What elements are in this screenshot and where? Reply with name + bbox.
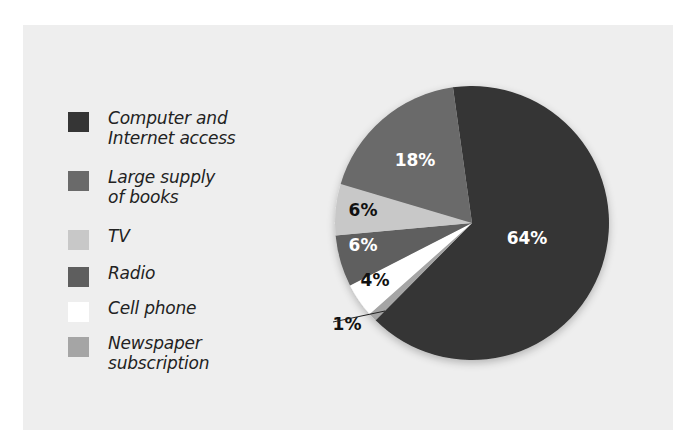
slice-label: 64% xyxy=(507,228,548,248)
slice-label: 4% xyxy=(361,270,390,290)
slice-label: 6% xyxy=(349,200,378,220)
pie-chart: 64%1%4%6%6%18% xyxy=(0,0,689,445)
pie-slices xyxy=(335,86,609,360)
slice-label: 18% xyxy=(395,150,436,170)
slice-label: 6% xyxy=(349,235,378,255)
